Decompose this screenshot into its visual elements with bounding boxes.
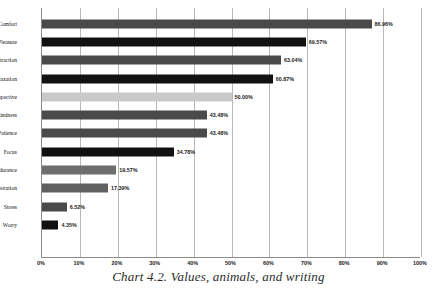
bar bbox=[42, 129, 207, 138]
bar-value-label: 4.35% bbox=[61, 222, 76, 228]
bar-row: Pleasure69.57% bbox=[42, 33, 420, 51]
bar bbox=[42, 202, 67, 211]
bar-row: Relaxation60.87% bbox=[42, 69, 420, 87]
gridline bbox=[421, 8, 422, 257]
bar bbox=[42, 37, 306, 46]
bar-value-label: 43.48% bbox=[210, 130, 228, 136]
bar-value-label: 19.57% bbox=[119, 167, 137, 173]
chart-caption: Chart 4.2. Values, animals, and writing bbox=[0, 269, 437, 285]
bar-row: Endurance19.57% bbox=[42, 161, 420, 179]
bar-chart-figure: Comfort86.96%Pleasure69.57%Distraction63… bbox=[0, 0, 437, 288]
bar bbox=[42, 111, 207, 120]
x-axis-tick-label: 100% bbox=[413, 260, 427, 266]
x-axis-tick-label: 40% bbox=[187, 260, 198, 266]
category-label: Comfort bbox=[0, 21, 17, 27]
bar-rows: Comfort86.96%Pleasure69.57%Distraction63… bbox=[42, 8, 420, 257]
plot-area: Comfort86.96%Pleasure69.57%Distraction63… bbox=[41, 8, 420, 258]
bar-value-label: 60.87% bbox=[276, 76, 294, 82]
bar bbox=[42, 166, 116, 175]
bar-value-label: 50.00% bbox=[235, 94, 253, 100]
x-axis-tick-label: 20% bbox=[111, 260, 122, 266]
bar-row: Worry4.35% bbox=[42, 216, 420, 234]
category-label: Relaxation bbox=[0, 76, 17, 82]
category-label: Endurance bbox=[0, 167, 17, 173]
bar-row: Stress6.52% bbox=[42, 198, 420, 216]
x-axis-tick-label: 0% bbox=[37, 260, 45, 266]
category-label: Stress bbox=[4, 204, 17, 210]
x-axis-tick-label: 80% bbox=[339, 260, 350, 266]
category-label: Kindness bbox=[0, 112, 17, 118]
bar bbox=[42, 56, 281, 65]
bar bbox=[42, 147, 174, 156]
bar bbox=[42, 221, 58, 230]
bar-value-label: 6.52% bbox=[70, 204, 85, 210]
category-label: Frustration bbox=[0, 185, 17, 191]
bar bbox=[42, 92, 232, 101]
category-label: Perspective bbox=[0, 94, 17, 100]
bar bbox=[42, 74, 273, 83]
category-label: Distraction bbox=[0, 57, 17, 63]
x-axis-tick-label: 10% bbox=[73, 260, 84, 266]
category-label: Worry bbox=[3, 222, 17, 228]
bar-value-label: 34.78% bbox=[177, 149, 195, 155]
x-axis-tick-label: 30% bbox=[149, 260, 160, 266]
category-label: Pleasure bbox=[0, 39, 17, 45]
bar-row: Kindness43.48% bbox=[42, 106, 420, 124]
category-label: Patience bbox=[0, 130, 17, 136]
bar-row: Frustration17.39% bbox=[42, 179, 420, 197]
bar-value-label: 43.48% bbox=[210, 112, 228, 118]
x-axis-tick-label: 60% bbox=[263, 260, 274, 266]
bar-row: Distraction63.04% bbox=[42, 51, 420, 69]
x-axis-tick-label: 70% bbox=[301, 260, 312, 266]
bar-row: Perspective50.00% bbox=[42, 88, 420, 106]
bar-value-label: 17.39% bbox=[111, 185, 129, 191]
bar-row: Patience43.48% bbox=[42, 124, 420, 142]
category-label: Focus bbox=[4, 149, 17, 155]
x-axis-tick-label: 50% bbox=[225, 260, 236, 266]
bar-value-label: 86.96% bbox=[375, 21, 393, 27]
bar-value-label: 69.57% bbox=[309, 39, 327, 45]
bar bbox=[42, 184, 108, 193]
bar-row: Comfort86.96% bbox=[42, 14, 420, 32]
x-axis-tick-label: 90% bbox=[377, 260, 388, 266]
bar bbox=[42, 19, 372, 28]
bar-row: Focus34.78% bbox=[42, 143, 420, 161]
bar-value-label: 63.04% bbox=[284, 57, 302, 63]
